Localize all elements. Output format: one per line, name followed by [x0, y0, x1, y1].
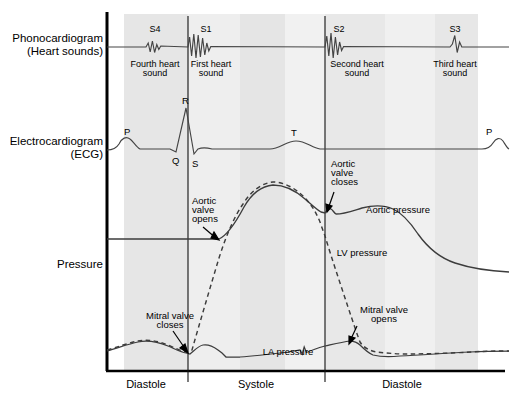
- sound-label-s4: S4: [149, 24, 160, 34]
- row-label-pressure: Pressure: [0, 258, 103, 271]
- row-label-phonocardiogram-line2: (Heart sounds): [0, 45, 103, 58]
- row-label-ecg: Electrocardiogram (ECG): [0, 135, 103, 161]
- ecg-label-r: R: [182, 95, 189, 106]
- wiggers-diagram-figure: S4 Fourth heart sound S1 First heart sou…: [0, 0, 510, 404]
- band-systole-b: [240, 14, 285, 371]
- sound-name-s1-line2: sound: [199, 68, 224, 78]
- ecg-label-s: S: [192, 158, 198, 169]
- row-label-ecg-line1: Electrocardiogram: [0, 135, 103, 148]
- row-label-pressure-text: Pressure: [0, 258, 103, 271]
- annot-aortic-open-line3: opens: [192, 213, 218, 224]
- sound-label-s3: S3: [449, 24, 460, 34]
- phase-label-diastole-1: Diastole: [126, 378, 166, 390]
- ecg-label-t: T: [291, 127, 297, 138]
- ecg-label-q: Q: [172, 155, 179, 166]
- phase-label-diastole-2: Diastole: [382, 378, 422, 390]
- curve-label-la-pressure: LA pressure: [263, 346, 314, 357]
- ecg-label-p-1: P: [124, 126, 130, 137]
- band-systole-c: [285, 14, 325, 371]
- phase-label-systole: Systole: [238, 378, 274, 390]
- cardiac-cycle-plot: S4 Fourth heart sound S1 First heart sou…: [0, 0, 510, 404]
- curve-label-lv-pressure: LV pressure: [337, 247, 388, 258]
- phase-labels: Diastole Systole Diastole: [126, 378, 422, 390]
- curve-label-aortic-pressure: Aortic pressure: [366, 204, 430, 215]
- row-label-phonocardiogram-line1: Phonocardiogram: [0, 32, 103, 45]
- row-label-ecg-line2: (ECG): [0, 148, 103, 161]
- annot-mitral-open-line2: opens: [371, 313, 397, 324]
- sound-label-s1: S1: [200, 24, 211, 34]
- ecg-label-p-2: P: [486, 126, 492, 137]
- sound-name-s3-line2: sound: [443, 68, 468, 78]
- sound-label-s2: S2: [333, 24, 344, 34]
- annot-mitral-close-line2: closes: [157, 319, 184, 330]
- annot-aortic-close-line3: closes: [331, 176, 358, 187]
- sound-name-s4-line2: sound: [143, 68, 168, 78]
- row-label-phonocardiogram: Phonocardiogram (Heart sounds): [0, 32, 103, 58]
- sound-name-s2-line2: sound: [345, 68, 370, 78]
